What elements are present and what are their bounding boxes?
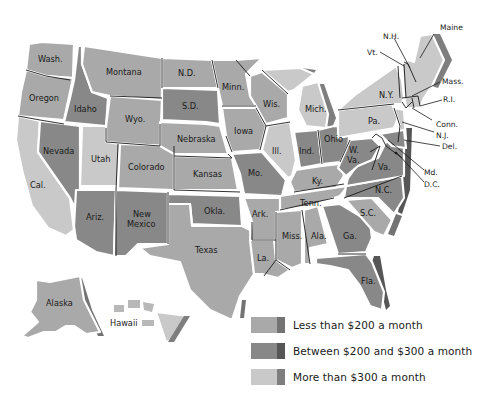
label-hawaii: Hawaii	[110, 318, 137, 328]
label-colorado: Colorado	[128, 162, 165, 172]
label-nh: N.H.	[383, 32, 399, 41]
label-oregon: Oregon	[29, 93, 59, 103]
label-la: La.	[257, 253, 269, 263]
legend-item-more-300: More than $300 a month	[251, 368, 472, 385]
label-wva-1: W.	[349, 145, 359, 155]
state-ny[interactable]	[338, 66, 404, 110]
label-nd: N.D.	[178, 68, 196, 78]
label-miss: Miss.	[282, 231, 302, 241]
legend-swatch-edge	[277, 317, 285, 333]
label-maine: Maine	[440, 23, 463, 32]
legend-label-between-200-300: Between $200 and $300 a month	[293, 345, 472, 357]
label-del: Del.	[442, 142, 457, 151]
label-wash: Wash.	[38, 54, 63, 64]
label-vt: Vt.	[367, 48, 378, 57]
label-tenn: Tenn.	[299, 198, 322, 208]
label-nj: N.J.	[436, 131, 449, 140]
label-kansas: Kansas	[193, 169, 222, 179]
label-alaska: Alaska	[46, 298, 73, 308]
state-ariz[interactable]	[74, 190, 116, 256]
legend-label-less-200: Less than $200 a month	[293, 319, 423, 331]
hawaii-island-4	[142, 320, 154, 326]
label-mo: Mo.	[248, 168, 263, 178]
label-ohio: Ohio	[324, 134, 343, 144]
label-ill: Ill.	[272, 146, 282, 156]
label-fla: Fla.	[361, 276, 376, 286]
label-ariz: Ariz.	[86, 212, 104, 222]
label-sd: S.D.	[182, 101, 199, 111]
legend-item-between-200-300: Between $200 and $300 a month	[251, 342, 472, 359]
label-ala: Ala.	[311, 231, 327, 241]
legend-swatch-edge	[277, 369, 285, 385]
shadow-tex	[240, 300, 246, 318]
label-okla: Okla.	[204, 206, 225, 216]
label-ark: Ark.	[252, 209, 268, 219]
label-sc: S.C.	[360, 208, 376, 218]
label-ri: R.I.	[443, 95, 455, 104]
legend-item-less-200: Less than $200 a month	[251, 316, 472, 333]
label-dc: D.C.	[424, 180, 440, 189]
label-nebraska: Nebraska	[177, 134, 216, 144]
label-texas: Texas	[194, 245, 218, 255]
label-ny: N.Y.	[379, 90, 394, 100]
label-ind: Ind.	[299, 146, 314, 156]
legend-swatch-less-200	[251, 317, 285, 333]
map-legend: Less than $200 a month Between $200 and …	[251, 316, 472, 394]
label-conn: Conn.	[436, 120, 458, 129]
label-wyo: Wyo.	[125, 114, 145, 124]
label-idaho: Idaho	[74, 104, 97, 114]
hawaii-island-3	[143, 302, 154, 312]
legend-swatch-edge	[277, 343, 285, 359]
label-ky: Ky.	[312, 176, 323, 186]
label-wis: Wis.	[263, 99, 280, 109]
hawaii-island-2	[128, 300, 140, 308]
label-new-mexico-1: New	[133, 209, 151, 219]
label-md: Md.	[424, 168, 438, 177]
label-cal: Cal.	[30, 180, 46, 190]
legend-label-more-300: More than $300 a month	[293, 371, 426, 383]
label-utah: Utah	[91, 154, 110, 164]
label-nc: N.C.	[375, 185, 392, 195]
label-nevada: Nevada	[43, 146, 74, 156]
legend-swatch-more-300	[251, 369, 285, 385]
label-wva-2: Va.	[347, 155, 360, 165]
label-pa: Pa.	[368, 116, 380, 126]
label-minn: Minn.	[222, 82, 244, 92]
label-ga: Ga.	[343, 231, 357, 241]
label-new-mexico-2: Mexico	[127, 219, 156, 229]
label-montana: Montana	[106, 67, 142, 77]
label-iowa: Iowa	[234, 126, 253, 136]
legend-swatch-between-200-300	[251, 343, 285, 359]
label-mass: Mass.	[442, 77, 464, 86]
label-va: Va.	[378, 162, 391, 172]
label-mich: Mich.	[305, 104, 327, 114]
hawaii-island-1	[114, 305, 124, 312]
